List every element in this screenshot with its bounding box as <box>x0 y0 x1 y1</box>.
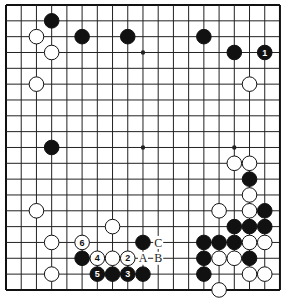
white-stone <box>242 267 257 282</box>
black-stone <box>242 219 257 234</box>
white-stone <box>29 77 44 92</box>
black-stone <box>242 251 257 266</box>
white-stone <box>242 235 257 250</box>
black-stone <box>227 219 242 234</box>
black-stone <box>44 14 59 29</box>
move-number: 5 <box>95 269 100 279</box>
go-board: CAB 164253 <box>0 0 285 301</box>
black-stone <box>227 45 242 60</box>
white-stone <box>227 251 242 266</box>
black-stone <box>212 235 227 250</box>
black-stone: 3 <box>120 267 135 282</box>
black-stone <box>75 29 90 44</box>
stones: 164253 <box>29 14 272 298</box>
star-point <box>141 50 145 54</box>
white-stone <box>44 235 59 250</box>
white-stone <box>257 267 272 282</box>
white-stone <box>257 235 272 250</box>
black-stone <box>136 235 151 250</box>
star-point <box>141 145 145 149</box>
white-stone <box>227 156 242 171</box>
mark-label: B <box>154 251 162 265</box>
white-stone: 4 <box>90 251 105 266</box>
black-stone <box>44 140 59 155</box>
black-stone <box>197 251 212 266</box>
mark-a: A <box>138 251 148 265</box>
white-stone <box>242 203 257 218</box>
white-stone <box>242 77 257 92</box>
black-stone <box>257 219 272 234</box>
white-stone: 6 <box>75 235 90 250</box>
move-number: 6 <box>80 238 85 248</box>
white-stone <box>212 203 227 218</box>
mark-label: A <box>139 251 148 265</box>
mark-c: C <box>153 236 163 250</box>
black-stone <box>136 267 151 282</box>
black-stone: 1 <box>257 45 272 60</box>
move-number: 2 <box>125 253 130 263</box>
black-stone <box>120 29 135 44</box>
white-stone <box>105 219 120 234</box>
white-stone <box>212 283 227 298</box>
black-stone <box>242 172 257 187</box>
black-stone <box>227 235 242 250</box>
white-stone <box>29 29 44 44</box>
white-stone <box>44 267 59 282</box>
black-stone <box>105 267 120 282</box>
mark-b: B <box>153 251 163 265</box>
move-number: 3 <box>125 269 130 279</box>
mark-label: C <box>154 236 162 250</box>
black-stone <box>257 203 272 218</box>
move-number: 1 <box>262 48 267 58</box>
black-stone <box>197 235 212 250</box>
black-stone <box>197 267 212 282</box>
white-stone <box>242 156 257 171</box>
move-number: 4 <box>95 253 100 263</box>
white-stone <box>212 251 227 266</box>
go-board-diagram: CAB 164253 <box>0 0 285 301</box>
white-stone: 2 <box>120 251 135 266</box>
white-stone <box>44 45 59 60</box>
white-stone <box>105 251 120 266</box>
black-stone <box>75 251 90 266</box>
star-point <box>232 145 236 149</box>
black-stone: 5 <box>90 267 105 282</box>
white-stone <box>29 203 44 218</box>
white-stone <box>242 188 257 203</box>
black-stone <box>197 29 212 44</box>
